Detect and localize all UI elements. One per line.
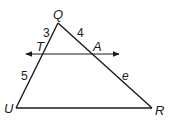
side-QU [16,23,58,108]
side-QR [58,23,152,108]
segment-label-TU: 5 [21,69,28,83]
segment-label-QT: 3 [43,26,50,40]
vertex-label-T: T [36,39,45,54]
segment-label-QA: 4 [77,26,84,40]
segment-label-AR: e [122,69,129,83]
vertex-label-R: R [155,103,164,118]
triangle-diagram: Q T A U R 3 4 5 e [0,0,169,124]
vertex-label-U: U [4,101,14,116]
vertex-label-A: A [92,39,102,54]
vertex-label-Q: Q [53,7,63,22]
